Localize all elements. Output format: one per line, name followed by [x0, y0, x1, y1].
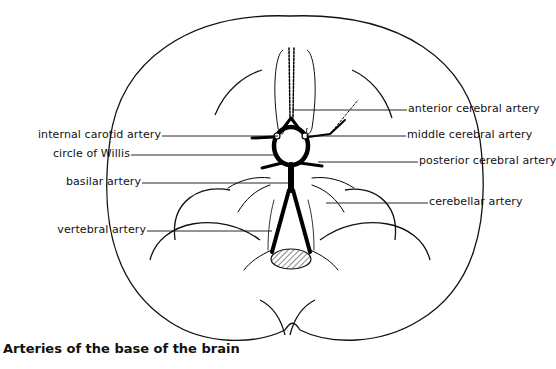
label-posterior-cerebral-artery: posterior cerebral artery	[419, 154, 556, 167]
label-vertebral-artery: vertebral artery	[57, 223, 146, 236]
label-basilar-artery: basilar artery	[66, 175, 141, 188]
medulla-section	[271, 249, 311, 269]
label-internal-carotid-artery: internal carotid artery	[38, 128, 161, 141]
label-middle-cerebral-artery: middle cerebral artery	[407, 128, 532, 141]
leader-lines	[131, 110, 428, 231]
arteries	[228, 48, 358, 270]
brain-outline	[107, 16, 483, 341]
label-circle-of-willis: circle of Willis	[53, 147, 130, 160]
label-cerebellar-artery: cerebellar artery	[429, 195, 523, 208]
label-anterior-cerebral-artery: anterior cerebral artery	[408, 102, 540, 115]
figure-caption: Arteries of the base of the brain	[3, 341, 240, 356]
